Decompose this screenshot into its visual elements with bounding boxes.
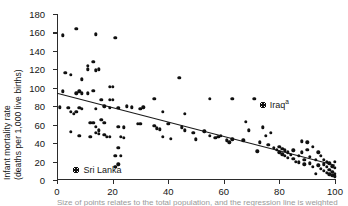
- y-tick-label-0: 0: [40, 175, 45, 186]
- plot-area: 020406080100120140160180 020406080100 Ir…: [57, 14, 335, 180]
- y-tick-label-60: 60: [34, 119, 45, 130]
- annotation-label-iraq: Iraqa: [270, 100, 289, 110]
- y-tick-label-40: 40: [34, 138, 45, 149]
- y-tick-label-180: 180: [29, 9, 45, 20]
- y-axis-label-line2: (deaths per 1,000 live births): [13, 8, 24, 180]
- data-point: [333, 175, 336, 178]
- x-tick-label-80: 80: [274, 186, 285, 197]
- highlighted-point-iraq: [259, 102, 266, 109]
- x-tick-label-0: 0: [54, 186, 59, 197]
- figure-caption-cutoff: Size of points relates to the total popu…: [57, 198, 348, 206]
- y-axis-label: Infant mortality rate (deaths per 1,000 …: [2, 8, 23, 180]
- x-tick-label-100: 100: [327, 186, 343, 197]
- x-tick-label-60: 60: [219, 186, 230, 197]
- x-tick-label-20: 20: [107, 186, 118, 197]
- data-point: [333, 166, 336, 169]
- x-tick-40: [168, 180, 169, 184]
- data-point: [333, 160, 336, 163]
- y-tick-label-80: 80: [34, 101, 45, 112]
- y-tick-label-160: 160: [29, 27, 45, 38]
- annotation-label-sri-lanka: Sri Lanka: [83, 165, 121, 175]
- x-tick-0: [57, 180, 58, 184]
- trend-line: [57, 14, 335, 180]
- y-tick-label-120: 120: [29, 64, 45, 75]
- x-tick-20: [113, 180, 114, 184]
- x-tick-60: [224, 180, 225, 184]
- y-axis-label-line1: Infant mortality rate: [2, 8, 13, 180]
- scatter-plot-figure: Infant mortality rate (deaths per 1,000 …: [0, 0, 348, 206]
- x-tick-100: [335, 180, 336, 184]
- highlighted-point-sri-lanka: [73, 166, 80, 173]
- y-tick-label-20: 20: [34, 156, 45, 167]
- y-tick-label-100: 100: [29, 82, 45, 93]
- x-tick-80: [279, 180, 280, 184]
- y-tick-label-140: 140: [29, 45, 45, 56]
- x-tick-label-40: 40: [163, 186, 174, 197]
- y-axis-label-container: Infant mortality rate (deaths per 1,000 …: [0, 0, 30, 186]
